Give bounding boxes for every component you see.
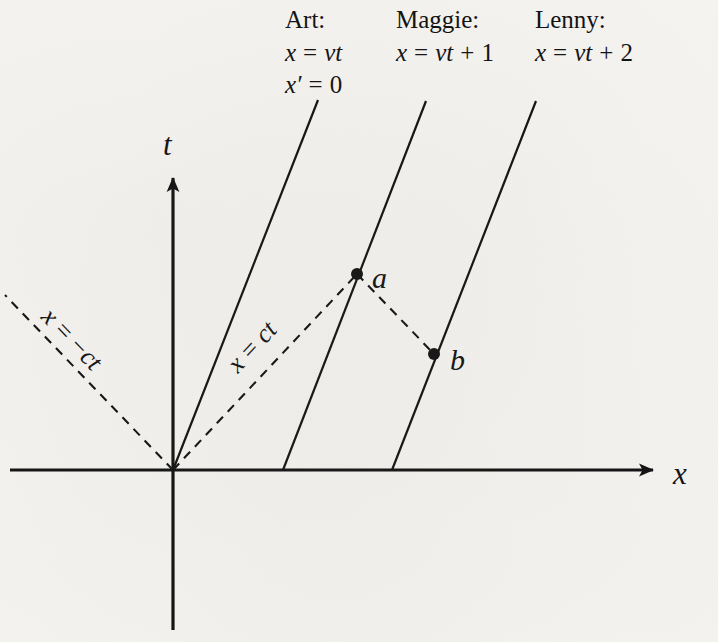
spacetime-diagram-figure: x t x=ct x=−ct	[0, 0, 718, 642]
maggie-eq-equals: =	[414, 39, 428, 66]
maggie-eq-one: 1	[481, 39, 494, 66]
worldlines-group	[173, 100, 536, 470]
art-eq2-x-prime: x′	[284, 71, 302, 98]
event-point-b	[428, 348, 440, 360]
a-to-b-connector	[357, 274, 434, 354]
art-worldline	[173, 100, 318, 470]
legend-maggie-name: Maggie:	[396, 6, 479, 33]
maggie-eq-plus: +	[460, 39, 474, 66]
x-axis-label: x	[672, 456, 687, 491]
legend-lenny-equation-1: x=vt+2	[534, 39, 633, 66]
event-point-a	[351, 268, 363, 280]
legend-art-equation-1: x=vt	[284, 39, 343, 66]
art-eq1-equals: =	[303, 39, 317, 66]
lenny-eq-vt: vt	[574, 39, 593, 66]
legend-art-equation-2: x′=0	[284, 71, 342, 98]
maggie-eq-x: x	[395, 39, 407, 66]
maggie-worldline	[283, 101, 426, 470]
legend-lenny-name: Lenny:	[535, 6, 606, 33]
lenny-worldline	[392, 101, 536, 470]
lenny-eq-two: 2	[620, 39, 633, 66]
lenny-eq-x: x	[534, 39, 546, 66]
legend-column-maggie: Maggie: x=vt+1	[395, 6, 494, 66]
t-axis-label: t	[163, 127, 173, 162]
light-line-x-equals-ct	[173, 274, 357, 470]
art-eq2-zero: 0	[330, 71, 343, 98]
light-line-x-equals-minus-ct	[5, 295, 173, 470]
lenny-eq-plus: +	[599, 39, 613, 66]
art-eq2-equals: =	[309, 71, 323, 98]
legend-art-name: Art:	[285, 6, 325, 33]
maggie-eq-vt: vt	[435, 39, 454, 66]
art-eq1-vt: vt	[324, 39, 343, 66]
diagram-canvas: x t x=ct x=−ct	[0, 0, 718, 642]
art-eq1-x: x	[284, 39, 296, 66]
axes-group	[10, 178, 653, 630]
legend-column-art: Art: x=vt x′=0	[284, 6, 343, 98]
legend-maggie-equation-1: x=vt+1	[395, 39, 494, 66]
legend-column-lenny: Lenny: x=vt+2	[534, 6, 633, 66]
lenny-eq-equals: =	[553, 39, 567, 66]
event-label-a: a	[372, 261, 387, 294]
event-label-b: b	[450, 343, 465, 376]
